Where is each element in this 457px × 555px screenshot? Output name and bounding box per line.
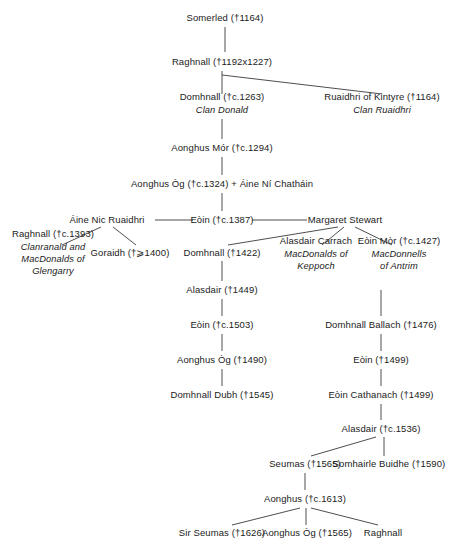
- node-name-aonghus-og1490: Aonghus Òg (†1490): [177, 354, 267, 367]
- node-subtitle-raghnall1393: Clanranald and: [12, 241, 94, 253]
- node-alasdair1449: Alasdair (†1449): [186, 284, 257, 297]
- node-raghnall1393: Raghnall (†c.1393)Clanranald andMacDonal…: [12, 228, 94, 277]
- node-aonghus1613: Aonghus (†c.1613): [264, 493, 346, 506]
- node-name-domhnall1422: Domhnall (†1422): [183, 247, 260, 260]
- node-alasdair-carrach: Alasdair CarrachMacDonalds ofKeppoch: [280, 235, 352, 272]
- node-name-ruaidhri-kintyre: Ruaidhri of Kintyre (†1164): [324, 91, 440, 104]
- node-name-eoin1499: Eòin (†1499): [353, 354, 409, 367]
- node-subtitle-domhnall1: Clan Donald: [180, 103, 265, 115]
- node-margaret: Margaret Stewart: [308, 214, 382, 227]
- node-name-aonghus-mor: Aonghus Mór (†c.1294): [171, 142, 272, 155]
- node-name-raghnall1393: Raghnall (†c.1393): [12, 228, 94, 241]
- node-name-raghnall1: Raghnall (†1192x1227): [172, 56, 272, 69]
- family-tree-diagram: Somerled (†1164)Raghnall (†1192x1227)Dom…: [0, 0, 457, 555]
- node-domhnall-ballach: Domhnall Ballach (†1476): [325, 319, 437, 332]
- edge-aonghus1613-to-raghnall-last: [311, 508, 378, 525]
- node-aonghus-mor: Aonghus Mór (†c.1294): [171, 142, 272, 155]
- node-name-eoin-mor: Eòin Mòr (†c.1427): [358, 235, 441, 248]
- node-aonghus-og1490: Aonghus Òg (†1490): [177, 354, 267, 367]
- node-eoin-mor: Eòin Mòr (†c.1427)MacDonnellsof Antrim: [358, 235, 441, 272]
- node-name-sir-seumas: Sir Seumas (†1626): [179, 527, 265, 540]
- node-name-aonghus-og1565: Aonghus Òg (†1565): [262, 527, 352, 540]
- node-subtitle-alasdair-carrach: MacDonalds of: [280, 247, 352, 259]
- node-subtitle-raghnall1393-1: MacDonalds of: [12, 253, 94, 265]
- node-domhnall1422: Domhnall (†1422): [183, 247, 260, 260]
- node-name-alasdair1536: Alasdair (†c.1536): [342, 423, 421, 436]
- node-aonghus-og1565: Aonghus Òg (†1565): [262, 527, 352, 540]
- node-seumas1565: Seumas (†1565): [269, 458, 341, 471]
- node-name-eoin-cathanach: Eòin Cathanach (†1499): [328, 389, 433, 402]
- node-subtitle-alasdair-carrach-1: Keppoch: [280, 259, 352, 271]
- edge-aine-nic-to-goraidh: [113, 227, 136, 245]
- node-raghnall-last: Raghnall: [364, 527, 402, 540]
- node-raghnall1: Raghnall (†1192x1227): [172, 56, 272, 69]
- node-aonghus-og1: Aonghus Òg (†c.1324) + Áine Ní Chatháin: [131, 178, 313, 191]
- node-eoin1503: Eòin (†c.1503): [190, 319, 253, 332]
- node-name-seumas1565: Seumas (†1565): [269, 458, 341, 471]
- node-name-somerled: Somerled (†1164): [187, 12, 264, 25]
- node-name-domhnall1: Domhnall (†c.1263): [180, 91, 265, 104]
- node-name-alasdair1449: Alasdair (†1449): [186, 284, 257, 297]
- node-name-margaret: Margaret Stewart: [308, 214, 382, 227]
- node-domhnall1: Domhnall (†c.1263)Clan Donald: [180, 91, 265, 116]
- node-name-aonghus1613: Aonghus (†c.1613): [264, 493, 346, 506]
- node-name-aonghus-og1: Aonghus Òg (†c.1324) + Áine Ní Chatháin: [131, 178, 313, 191]
- node-somerled: Somerled (†1164): [187, 12, 264, 25]
- edge-aonghus1613-to-sir-seumas: [232, 508, 300, 525]
- node-ruaidhri-kintyre: Ruaidhri of Kintyre (†1164)Clan Ruaidhri: [324, 91, 440, 116]
- node-aine-nic: Áine Nic Ruaidhri: [69, 214, 144, 227]
- node-name-eoin1387: Eòin (†c.1387): [190, 214, 253, 227]
- node-name-raghnall-last: Raghnall: [364, 527, 402, 540]
- node-somhairle: Somhairle Buidhe (†1590): [333, 458, 446, 471]
- edge-alasdair1536-to-seumas1565: [311, 437, 376, 456]
- node-eoin1387: Eòin (†c.1387): [190, 214, 253, 227]
- node-name-domhnall-ballach: Domhnall Ballach (†1476): [325, 319, 437, 332]
- node-subtitle-ruaidhri-kintyre: Clan Ruaidhri: [324, 103, 440, 115]
- node-name-somhairle: Somhairle Buidhe (†1590): [333, 458, 446, 471]
- node-name-domhnall-dubh: Domhnall Dubh (†1545): [171, 389, 274, 402]
- node-name-alasdair-carrach: Alasdair Carrach: [280, 235, 352, 248]
- node-eoin1499: Eòin (†1499): [353, 354, 409, 367]
- node-subtitle-eoin-mor-1: of Antrim: [358, 259, 441, 271]
- node-goraidh: Goraidh (†⩾1400): [91, 247, 170, 260]
- node-subtitle-raghnall1393-2: Glengarry: [12, 265, 94, 277]
- node-sir-seumas: Sir Seumas (†1626): [179, 527, 265, 540]
- node-subtitle-eoin-mor: MacDonnells: [358, 247, 441, 259]
- node-name-goraidh: Goraidh (†⩾1400): [91, 247, 170, 260]
- node-domhnall-dubh: Domhnall Dubh (†1545): [171, 389, 274, 402]
- node-name-aine-nic: Áine Nic Ruaidhri: [69, 214, 144, 227]
- node-name-eoin1503: Eòin (†c.1503): [190, 319, 253, 332]
- node-eoin-cathanach: Eòin Cathanach (†1499): [328, 389, 433, 402]
- node-alasdair1536: Alasdair (†c.1536): [342, 423, 421, 436]
